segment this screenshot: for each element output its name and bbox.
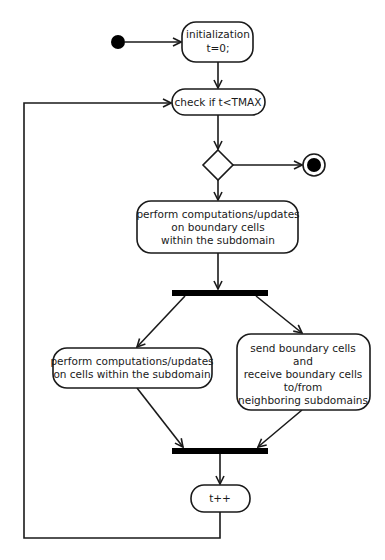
initial-node: [111, 35, 125, 49]
boundary-line-2: on boundary cells: [171, 221, 264, 233]
action-increment: t++: [191, 485, 250, 512]
exchange-line-3: receive boundary cells: [244, 368, 363, 380]
edge-fork-exchange: [256, 296, 302, 333]
action-inner-computations: perform computations/updates on cells wi…: [50, 348, 213, 388]
decision-node: [203, 150, 233, 180]
increment-label: t++: [209, 492, 231, 504]
action-boundary-computations: perform computations/updates on boundary…: [136, 201, 299, 253]
edge-loop-back: [24, 103, 220, 538]
init-line-1: initialization: [186, 28, 250, 40]
action-check-tmax: check if t<TMAX: [172, 89, 265, 115]
join-bar: [172, 448, 268, 454]
exchange-line-2: and: [293, 355, 313, 367]
action-initialization: initialization t=0;: [182, 22, 253, 62]
check-label: check if t<TMAX: [175, 96, 262, 108]
edge-fork-inner: [137, 296, 185, 347]
boundary-line-3: within the subdomain: [161, 234, 275, 246]
inner-line-1: perform computations/updates: [50, 355, 213, 367]
exchange-line-5: neighboring subdomains: [238, 394, 368, 406]
edge-inner-join: [137, 388, 183, 447]
action-exchange-boundary: send boundary cells and receive boundary…: [237, 334, 370, 410]
exchange-line-4: to/from: [284, 381, 323, 393]
fork-bar: [172, 290, 268, 296]
exchange-line-1: send boundary cells: [250, 342, 356, 354]
inner-line-2: on cells within the subdomain: [53, 368, 210, 380]
edge-exchange-join: [258, 410, 302, 447]
boundary-line-1: perform computations/updates: [136, 208, 299, 220]
activity-diagram: initialization t=0; check if t<TMAX perf…: [0, 0, 385, 560]
init-line-2: t=0;: [206, 42, 229, 54]
final-node: [303, 154, 325, 176]
